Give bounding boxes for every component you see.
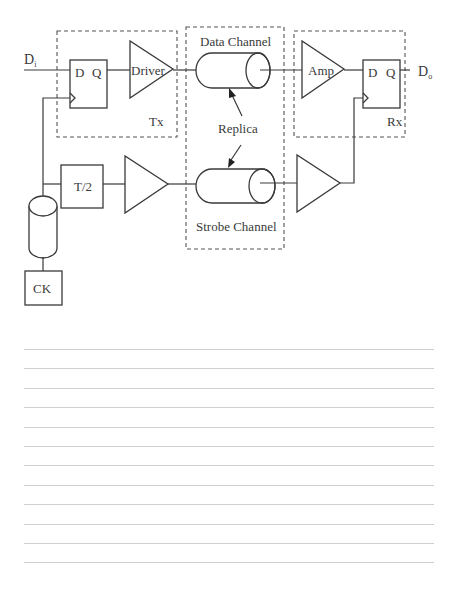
rx-label: Rx (387, 114, 403, 129)
ruled-line (24, 388, 434, 389)
replica-arrow-up-icon (229, 88, 242, 116)
t2-label: T/2 (74, 179, 92, 194)
output-label: Do (418, 64, 432, 81)
data-channel-cylinder-icon (196, 53, 270, 88)
ruled-line (24, 465, 434, 466)
rx-clock-wire (340, 98, 363, 183)
ruled-line (24, 524, 434, 525)
strobe-receiver-triangle-icon (297, 155, 340, 212)
ruled-line (24, 427, 434, 428)
input-label: Di (24, 52, 37, 69)
ruled-line (24, 543, 434, 544)
data-channel-label: Data Channel (200, 34, 272, 49)
strobe-channel-label: Strobe Channel (196, 219, 277, 234)
tx-ff-q-label: Q (92, 65, 102, 80)
clock-line-cylinder-icon (29, 196, 57, 258)
strobe-channel-cylinder-icon (196, 169, 275, 203)
ruled-line (24, 446, 434, 447)
ck-label: CK (33, 281, 52, 296)
ruled-line (24, 504, 434, 505)
tx-ff-d-label: D (75, 65, 84, 80)
amp-label: Amp (308, 63, 334, 78)
channel-block-boundary (186, 27, 284, 249)
tx-label: Tx (149, 114, 164, 129)
rx-ff-clock-icon (363, 93, 368, 103)
ruled-line (24, 407, 434, 408)
ruled-line (24, 368, 434, 369)
replica-arrow-down-icon (228, 145, 241, 168)
tx-clock-wire (43, 98, 70, 196)
rx-ff-q-label: Q (386, 65, 396, 80)
ruled-notes-area (24, 349, 434, 582)
driver-label: Driver (131, 63, 166, 78)
ruled-line (24, 485, 434, 486)
ruled-line (24, 349, 434, 350)
tx-ff-clock-icon (70, 93, 75, 103)
replica-label: Replica (218, 121, 258, 136)
strobe-driver-triangle-icon (125, 156, 168, 213)
data-strobe-link-diagram: Di D Q Driver Tx Data Channel Replica Am… (0, 0, 456, 330)
ruled-line (24, 562, 434, 563)
rx-ff-d-label: D (368, 65, 377, 80)
